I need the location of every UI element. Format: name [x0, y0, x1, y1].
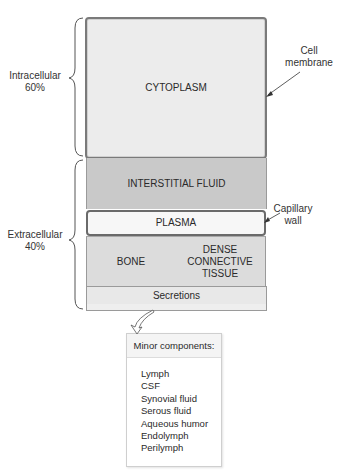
minor-components-title: Minor components: [127, 334, 221, 358]
secretions-compartment: Secretions [86, 286, 267, 305]
cytoplasm-compartment: CYTOPLASM [85, 17, 267, 159]
dense-line-2: CONNECTIVE [187, 256, 253, 268]
list-item: Perilymph [141, 442, 208, 454]
secretions-label: Secretions [153, 290, 200, 302]
intracellular-label: Intracellular 60% [2, 70, 68, 94]
cell-membrane-line-1: Cell [284, 45, 334, 57]
capillary-wall-callout: Capillary wall [268, 203, 318, 227]
plasma-label: PLASMA [156, 217, 197, 229]
list-item: Lymph [141, 368, 208, 380]
extracellular-label-text: Extracellular [2, 229, 68, 241]
intracellular-percent: 60% [2, 82, 68, 94]
dense-line-1: DENSE [187, 244, 253, 256]
minor-components-strip [86, 304, 267, 311]
minor-components-arrow [131, 310, 154, 334]
cytoplasm-label: CYTOPLASM [145, 82, 207, 94]
capillary-wall-line-2: wall [268, 215, 318, 227]
interstitial-fluid-compartment: INTERSTITIAL FLUID [86, 158, 267, 209]
bone-label: BONE [117, 256, 145, 268]
minor-components-list: Lymph CSF Synovial fluid Serous fluid Aq… [141, 368, 208, 455]
list-item: CSF [141, 380, 208, 392]
cell-membrane-arrowhead [266, 91, 273, 97]
bone-compartment: BONE [86, 236, 176, 286]
cell-membrane-arrow [268, 72, 300, 95]
cell-membrane-line-2: membrane [284, 57, 334, 69]
capillary-wall-line-1: Capillary [268, 203, 318, 215]
extracellular-brace [69, 160, 83, 309]
list-item: Synovial fluid [141, 393, 208, 405]
dense-connective-tissue-label: DENSE CONNECTIVE TISSUE [187, 244, 253, 280]
dense-line-3: TISSUE [187, 268, 253, 280]
list-item: Endolymph [141, 430, 208, 442]
dense-connective-tissue-compartment: DENSE CONNECTIVE TISSUE [175, 236, 266, 286]
cell-membrane-callout: Cell membrane [284, 45, 334, 69]
list-item: Serous fluid [141, 405, 208, 417]
extracellular-label: Extracellular 40% [2, 229, 68, 253]
interstitial-fluid-label: INTERSTITIAL FLUID [128, 178, 226, 190]
intracellular-brace [69, 18, 83, 156]
plasma-compartment: PLASMA [86, 210, 266, 236]
intracellular-label-text: Intracellular [2, 70, 68, 82]
minor-components-box: Minor components: Lymph CSF Synovial flu… [126, 333, 222, 467]
extracellular-percent: 40% [2, 241, 68, 253]
list-item: Aqueous humor [141, 418, 208, 430]
